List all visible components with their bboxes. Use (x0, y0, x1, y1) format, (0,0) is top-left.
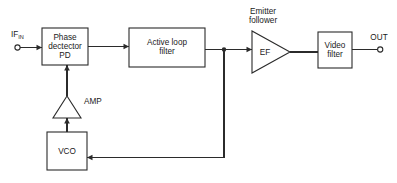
arrowhead-into-pd-bottom (64, 65, 70, 71)
out-terminal-node[interactable] (378, 47, 383, 52)
active-loop-filter-label-line2: filter (159, 47, 175, 56)
phase-detector-label-line3: PD (59, 51, 70, 60)
if-in-terminal-node[interactable] (15, 45, 20, 50)
arrowhead-into-loopfilter (124, 44, 130, 50)
video-filter-label-line2: filter (327, 50, 343, 59)
arrowhead-into-pd (37, 45, 43, 51)
active-loop-filter-label-line1: Active loop (147, 38, 187, 47)
block-diagram-canvas: IFIN Phase dectector PD Active loop filt… (0, 0, 397, 183)
out-label: OUT (370, 33, 387, 42)
video-filter-label-line1: Video (325, 41, 346, 50)
vco-label: VCO (58, 147, 76, 156)
if-in-label: IFIN (11, 30, 24, 40)
schematic-svg: IFIN Phase dectector PD Active loop filt… (0, 0, 397, 183)
emitter-follower-symbol-label: EF (260, 48, 270, 57)
amplifier-label: AMP (84, 97, 102, 106)
emitter-follower-symbol[interactable] (252, 31, 290, 73)
phase-detector-label-line1: Phase (53, 33, 77, 42)
amplifier-symbol[interactable] (53, 96, 81, 118)
arrowhead-into-amp (64, 118, 70, 124)
emitter-follower-caption-line2: follower (249, 16, 277, 25)
phase-detector-label-line2: dectector (48, 42, 82, 51)
arrowhead-into-ef (247, 47, 253, 53)
if-in-label-main: IF (11, 30, 18, 39)
if-in-label-sub: IN (18, 34, 24, 40)
arrowhead-into-vco (87, 155, 93, 161)
emitter-follower-caption-line1: Emitter (250, 7, 276, 16)
